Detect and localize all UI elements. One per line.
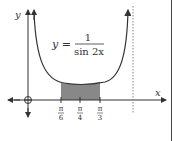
equation-numerator: 1: [85, 32, 91, 43]
x-axis-label: x: [155, 87, 161, 98]
tick-pi-3-num: π: [98, 105, 103, 113]
graph: y x y = 1 sin 2x π 6 π 4 π 3: [0, 0, 173, 141]
y-axis-label: y: [14, 9, 21, 20]
tick-pi-6-den: 6: [59, 114, 64, 122]
equation-denominator: sin 2x: [74, 46, 104, 57]
tick-pi-6-num: π: [59, 105, 64, 113]
tick-pi-4-den: 4: [78, 114, 83, 122]
tick-pi-4-num: π: [78, 105, 83, 113]
tick-pi-3-den: 3: [98, 114, 102, 122]
equation-lhs: y =: [51, 38, 71, 51]
